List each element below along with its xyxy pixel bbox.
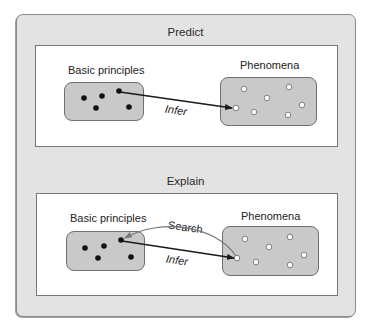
predict-infer-arrow <box>120 92 232 108</box>
predict-principle-dots <box>81 88 132 111</box>
predict-phenomenon-dots <box>233 84 305 118</box>
explain-infer-arrow <box>122 241 234 258</box>
diagram-graphics <box>0 0 371 331</box>
explain-phenomenon-dots <box>234 234 307 268</box>
explain-principle-dots <box>82 237 134 261</box>
explain-search-arrow <box>125 227 236 256</box>
